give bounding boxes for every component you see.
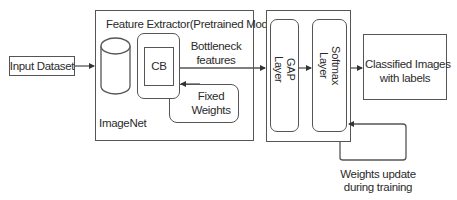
arrow-weights-update-loop [340,124,406,160]
connectors [0,0,457,200]
